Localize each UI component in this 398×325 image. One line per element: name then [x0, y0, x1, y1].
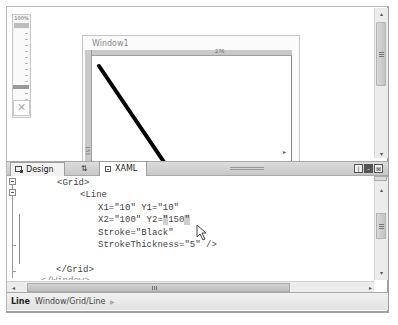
window-title: Window1 — [92, 39, 129, 48]
tab-design[interactable]: Design — [10, 162, 65, 176]
tab-xaml-label: XAML — [115, 162, 137, 176]
zoom-level-label: 100% — [13, 15, 30, 22]
fold-line-icon[interactable] — [9, 189, 16, 196]
zoom-in-cap[interactable] — [14, 23, 29, 28]
scroll-thumb[interactable] — [376, 213, 386, 239]
resize-arrow-icon[interactable]: ▸ — [283, 148, 286, 155]
tab-xaml[interactable]: XAML — [99, 161, 147, 176]
design-vertical-scrollbar[interactable]: ▴ ▾ — [374, 8, 388, 158]
code-line-1[interactable]: <Grid> — [57, 178, 89, 189]
design-canvas[interactable] — [92, 56, 292, 162]
scroll-thumb[interactable] — [27, 283, 290, 292]
xaml-editor[interactable]: <Grid> <Line X1="10" Y1="10" X2="100" Y2… — [7, 176, 374, 280]
fold-grid-icon[interactable] — [9, 178, 16, 185]
scroll-up-icon[interactable]: ▴ — [375, 186, 388, 193]
zoom-track[interactable] — [14, 29, 29, 107]
scroll-down-icon[interactable]: ▾ — [375, 150, 388, 157]
code-line-2[interactable]: <Line — [80, 190, 107, 201]
brace-highlight: " — [184, 215, 189, 225]
zoom-thumb[interactable] — [13, 85, 29, 89]
status-bar: Line Window/Grid/Line ▶ — [7, 292, 388, 310]
fit-to-window-icon[interactable]: ✕ — [13, 100, 30, 116]
swap-panes-button[interactable]: ⇅ — [69, 162, 99, 176]
mouse-pointer-icon — [196, 224, 210, 242]
splitter-grip[interactable] — [230, 167, 264, 170]
view-tab-bar: Design ⇅ XAML | – ⊠ — [7, 161, 388, 176]
code-line-5[interactable]: Stroke="Black" — [98, 228, 174, 239]
tab-design-label: Design — [26, 163, 54, 176]
collapse-pane-icon[interactable]: ⊠ — [374, 164, 383, 173]
xaml-view-icon — [105, 166, 111, 172]
change-indicator — [19, 214, 23, 264]
element-path-breadcrumb[interactable]: Window/Grid/Line — [35, 293, 105, 310]
ruler-left-value: 151 — [85, 146, 91, 156]
editor-vertical-scrollbar[interactable]: ▴ ▾ — [374, 177, 388, 280]
line-shape[interactable] — [92, 56, 291, 162]
ruler-top-value: 276 — [215, 48, 225, 54]
scroll-up-icon[interactable]: ▴ — [375, 10, 388, 17]
code-line-8[interactable]: </Grid> — [56, 265, 94, 276]
selected-element: Line — [11, 293, 30, 310]
scroll-down-icon[interactable]: ▾ — [375, 269, 388, 276]
code-line-3[interactable]: X1="10" Y1="10" — [98, 203, 179, 214]
design-view-icon — [15, 166, 22, 172]
code-line-9[interactable]: </Window> — [41, 276, 90, 280]
scroll-thumb[interactable] — [376, 22, 386, 86]
editor-split-handle[interactable] — [374, 176, 387, 181]
horizontal-split-icon[interactable]: – — [364, 164, 373, 173]
ruler-left[interactable]: 151 — [85, 50, 92, 162]
vertical-split-icon[interactable]: | — [354, 164, 363, 173]
breadcrumb-arrow-icon[interactable]: ▶ — [110, 293, 115, 310]
outline-gutter — [7, 176, 19, 280]
designer-window-preview[interactable]: Window1 276 151 ▸ — [82, 35, 300, 161]
code-line-4[interactable]: X2="100" Y2="150" — [98, 215, 190, 226]
